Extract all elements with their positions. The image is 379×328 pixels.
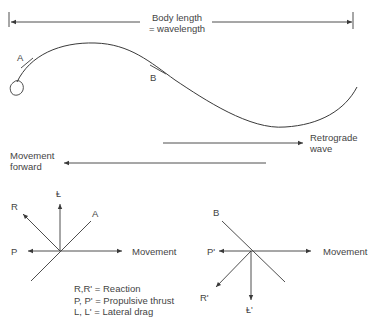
vector-b-p-label: P' [207, 246, 215, 257]
point-b-label: B [150, 72, 156, 83]
retrograde-line1: Retrograde [310, 132, 358, 143]
retrograde-line2: wave [310, 143, 358, 154]
vector-b-r-label: R' [200, 292, 209, 303]
retrograde-wave-label: Retrograde wave [310, 132, 358, 154]
legend-lateral-drag: L, L' = Lateral drag [74, 306, 174, 318]
point-a-label: A [17, 52, 23, 63]
vector-a-r-label: R [11, 201, 18, 212]
undulatory-locomotion-diagram: Body length = wavelength A B Retrograde … [0, 0, 379, 328]
legend-propulsive-thrust: P, P' = Propulsive thrust [74, 295, 174, 307]
movement-forward-label: Movement forward [10, 150, 54, 172]
body-length-line2: = wavelength [142, 23, 212, 34]
head-shape [10, 81, 23, 96]
vector-b-b-label: B [213, 207, 219, 218]
vector-a-movement-label: Movement [132, 246, 176, 257]
body-wave [17, 43, 357, 127]
body-length-label: Body length = wavelength [142, 12, 212, 34]
vector-a-l-label: Ⱡ [56, 189, 61, 200]
legend: R,R' = Reaction P, P' = Propulsive thrus… [74, 283, 174, 318]
vector-b-movement-label: Movement [323, 246, 367, 257]
vector-a-a-label: A [92, 208, 98, 219]
movement-forward-line2: forward [10, 161, 54, 172]
vector-b-l-label: Ⱡ' [246, 305, 253, 316]
legend-reaction: R,R' = Reaction [74, 283, 174, 295]
body-segment-b [222, 221, 285, 282]
body-length-line1: Body length [142, 12, 212, 23]
reaction-vector-r-prime [216, 251, 251, 287]
movement-forward-line1: Movement [10, 150, 54, 161]
reaction-vector-r [23, 214, 60, 251]
vector-a-p-label: P [11, 246, 17, 257]
diagram-lines [0, 0, 379, 328]
